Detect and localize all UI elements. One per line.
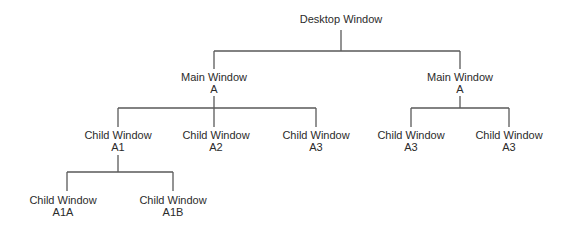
- connector-main-left: [118, 96, 316, 127]
- tree-connectors: [0, 0, 570, 227]
- node-sublabel: A1: [84, 141, 151, 153]
- node-child-window-right-1: Child Window A3: [377, 129, 444, 153]
- node-label: Child Window: [182, 129, 249, 141]
- node-sublabel: A3: [377, 141, 444, 153]
- node-child-window-right-2: Child Window A3: [475, 129, 542, 153]
- node-label: Child Window: [282, 129, 349, 141]
- node-label: Child Window: [29, 194, 96, 206]
- node-sublabel: A3: [475, 141, 542, 153]
- node-main-window-left: Main Window A: [181, 71, 247, 95]
- connector-main-right: [411, 96, 509, 127]
- node-label: Main Window: [427, 71, 493, 83]
- node-child-window-a1b: Child Window A1B: [139, 194, 206, 218]
- connector-desktop: [214, 30, 460, 69]
- node-sublabel: A2: [182, 141, 249, 153]
- node-sublabel: A1B: [139, 206, 206, 218]
- node-sublabel: A1A: [29, 206, 96, 218]
- node-label: Main Window: [181, 71, 247, 83]
- node-label: Child Window: [377, 129, 444, 141]
- node-label: Child Window: [475, 129, 542, 141]
- node-child-window-a1: Child Window A1: [84, 129, 151, 153]
- node-label: Desktop Window: [300, 13, 383, 25]
- node-sublabel: A: [427, 83, 493, 95]
- node-desktop-window: Desktop Window: [300, 13, 383, 25]
- node-main-window-right: Main Window A: [427, 71, 493, 95]
- connector-child-a1: [67, 155, 173, 191]
- node-label: Child Window: [139, 194, 206, 206]
- node-child-window-a1a: Child Window A1A: [29, 194, 96, 218]
- node-sublabel: A3: [282, 141, 349, 153]
- node-child-window-a2: Child Window A2: [182, 129, 249, 153]
- node-sublabel: A: [181, 83, 247, 95]
- node-child-window-a3: Child Window A3: [282, 129, 349, 153]
- node-label: Child Window: [84, 129, 151, 141]
